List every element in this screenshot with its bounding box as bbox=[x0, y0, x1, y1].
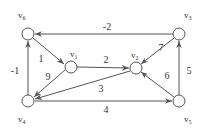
edge-weight-v3-v2: 7 bbox=[159, 42, 164, 53]
node-v1 bbox=[65, 61, 77, 73]
node-v2 bbox=[130, 62, 142, 74]
edge-weight-v5-v2: 6 bbox=[165, 70, 170, 81]
node-v6 bbox=[22, 28, 34, 40]
edge-weight-v5-v3: 5 bbox=[187, 65, 192, 76]
edge-weight-v2-v4: 3 bbox=[99, 83, 104, 94]
edge-weight-v3-v6: -2 bbox=[103, 21, 111, 32]
edges: -2 1 2 9 -1 3 4 5 6 7 bbox=[11, 21, 192, 115]
node-label-v2: v2 bbox=[131, 50, 139, 61]
node-label-v5: v5 bbox=[184, 114, 192, 125]
node-label-v6: v6 bbox=[18, 10, 26, 21]
node-v5 bbox=[173, 95, 185, 107]
edge-weight-v4-v6: -1 bbox=[11, 65, 19, 76]
node-v3 bbox=[173, 28, 185, 40]
edge-v3-v2 bbox=[141, 38, 174, 64]
edge-weight-v6-v1: 1 bbox=[39, 53, 44, 64]
node-label-v4: v4 bbox=[18, 114, 26, 125]
edge-weight-v1-v2: 2 bbox=[104, 54, 109, 65]
graph-diagram: -2 1 2 9 -1 3 4 5 6 7 bbox=[0, 0, 205, 132]
node-label-v1: v1 bbox=[70, 49, 78, 60]
node-v4 bbox=[22, 95, 34, 107]
edge-weight-v1-v4: 9 bbox=[46, 71, 51, 82]
node-label-v3: v3 bbox=[184, 10, 192, 21]
edge-weight-v4-v5: 4 bbox=[104, 104, 109, 115]
edge-v1-v2 bbox=[77, 67, 129, 68]
